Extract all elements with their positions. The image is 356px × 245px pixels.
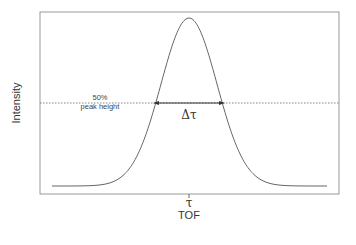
half-max-label-line1: 50%: [92, 93, 107, 102]
x-tick-label: τ: [186, 196, 193, 210]
peak-diagram: Intensity τ TOF 50% peak height Δτ: [0, 0, 356, 245]
half-max-label-line2: peak height: [81, 102, 121, 111]
y-axis-label: Intensity: [10, 82, 22, 123]
x-axis-label: TOF: [178, 209, 200, 221]
fwhm-label: Δτ: [181, 108, 197, 122]
